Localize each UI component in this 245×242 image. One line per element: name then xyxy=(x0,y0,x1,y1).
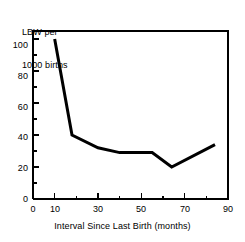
data-line-1 xyxy=(55,39,215,167)
axes-frame xyxy=(33,31,228,199)
plot-area xyxy=(0,0,245,242)
frame-rect xyxy=(33,31,228,199)
chart-figure: LBW per 1000 births 100 80 60 40 20 0 0 … xyxy=(0,0,245,242)
data-series-group xyxy=(55,39,215,167)
